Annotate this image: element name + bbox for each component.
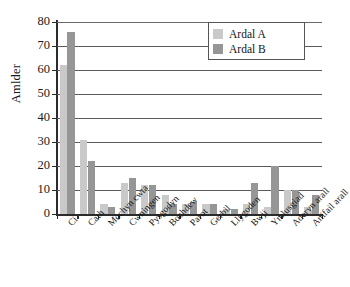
bar[interactable] [80, 140, 87, 214]
y-tick-label: 0 [6, 206, 50, 221]
y-tick-label: 10 [6, 182, 50, 197]
bar-group [118, 22, 138, 214]
y-tick-label: 20 [6, 158, 50, 173]
y-tick-label: 30 [6, 134, 50, 149]
legend-swatch-icon [213, 44, 223, 54]
bar[interactable] [60, 65, 67, 214]
chart-legend: Ardal A Ardal B [208, 22, 305, 60]
legend-label: Ardal B [229, 43, 266, 55]
bar-group [179, 22, 199, 214]
legend-item[interactable]: Ardal A [213, 26, 300, 41]
bar-group [98, 22, 118, 214]
legend-item[interactable]: Ardal B [213, 41, 300, 56]
bar[interactable] [88, 161, 95, 214]
x-tick-mark [77, 214, 78, 219]
y-tick-label: 70 [6, 38, 50, 53]
y-tick-label: 40 [6, 110, 50, 125]
bar-group [159, 22, 179, 214]
legend-swatch-icon [213, 29, 223, 39]
y-tick-label: 50 [6, 86, 50, 101]
x-tick-mark [57, 214, 58, 219]
bar[interactable] [271, 166, 278, 214]
y-tick-label: 80 [6, 14, 50, 29]
bar[interactable] [67, 32, 74, 214]
bar-group [77, 22, 97, 214]
bar-group [57, 22, 77, 214]
y-tick-label: 60 [6, 62, 50, 77]
legend-label: Ardal A [229, 28, 266, 40]
